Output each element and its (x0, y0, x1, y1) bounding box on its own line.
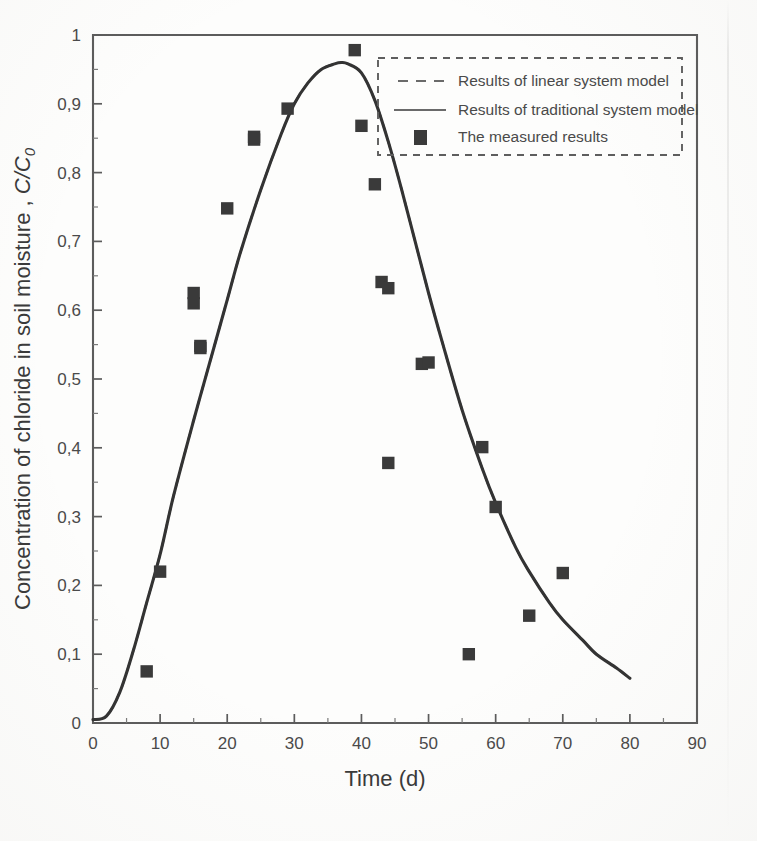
series-curve-1 (93, 62, 630, 719)
data-point-marker-18 (463, 648, 475, 660)
data-point-marker-0 (140, 665, 152, 677)
data-point-marker-17 (422, 356, 434, 368)
figure-root: 010203040506070809000,10,20,30,40,50,60,… (0, 0, 757, 841)
y-tick-label-7: 0,7 (57, 232, 81, 251)
x-tick-label-30: 30 (285, 734, 304, 753)
data-point-marker-10 (349, 44, 361, 56)
legend-label-2: The measured results (458, 128, 608, 145)
x-tick-label-80: 80 (620, 734, 639, 753)
y-tick-label-8: 0,8 (57, 164, 81, 183)
data-point-marker-5 (194, 342, 206, 354)
data-point-marker-15 (382, 457, 394, 469)
data-point-marker-8 (248, 131, 260, 143)
x-tick-label-20: 20 (218, 734, 237, 753)
y-tick-label-2: 0,2 (57, 576, 81, 595)
x-tick-label-90: 90 (688, 734, 707, 753)
x-tick-label-0: 0 (88, 734, 97, 753)
y-tick-label-0: 0 (72, 714, 81, 733)
legend-label-0: Results of linear system model (458, 72, 669, 89)
data-point-marker-3 (187, 297, 199, 309)
data-point-marker-22 (557, 567, 569, 579)
y-tick-label-9: 0,9 (57, 95, 81, 114)
x-axis-title: Time (d) (344, 766, 425, 791)
y-tick-label-1: 0,1 (57, 645, 81, 664)
y-tick-label-10: 1 (72, 26, 81, 45)
y-tick-label-4: 0,4 (57, 439, 81, 458)
y-tick-label-3: 0,3 (57, 508, 81, 527)
data-point-marker-9 (281, 102, 293, 114)
chart-plot: 010203040506070809000,10,20,30,40,50,60,… (0, 0, 757, 841)
svg-text:Concentration of chloride in s: Concentration of chloride in soil moistu… (10, 147, 38, 610)
data-point-marker-1 (154, 565, 166, 577)
data-point-marker-20 (489, 501, 501, 513)
data-point-marker-14 (382, 282, 394, 294)
legend-swatch-square (414, 130, 427, 145)
series-curve-0 (93, 62, 630, 719)
legend-label-1: Results of traditional system model (458, 101, 698, 118)
scan-paper-edge (727, 0, 729, 841)
x-tick-label-40: 40 (352, 734, 371, 753)
y-tick-label-5: 0,5 (57, 370, 81, 389)
data-point-marker-6 (221, 202, 233, 214)
y-tick-label-6: 0,6 (57, 301, 81, 320)
x-tick-label-60: 60 (486, 734, 505, 753)
data-point-marker-21 (523, 609, 535, 621)
x-tick-label-50: 50 (419, 734, 438, 753)
data-point-marker-19 (476, 441, 488, 453)
y-axis-title: Concentration of chloride in soil moistu… (10, 147, 38, 610)
data-point-marker-12 (369, 178, 381, 190)
data-point-marker-11 (355, 120, 367, 132)
x-tick-label-10: 10 (151, 734, 170, 753)
x-tick-label-70: 70 (553, 734, 572, 753)
